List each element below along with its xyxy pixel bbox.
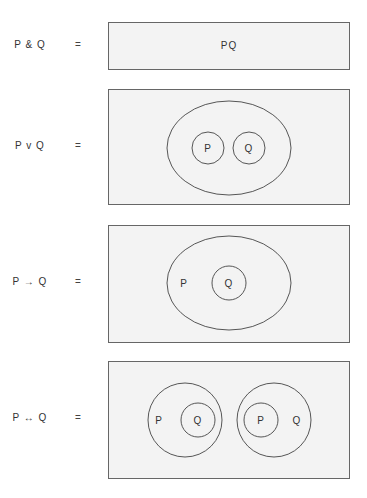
- iff-right-outer-label: Q: [293, 415, 302, 426]
- implies-label-p: P: [180, 278, 188, 289]
- implies-diagram: P Q: [109, 226, 350, 343]
- diagram-canvas: PQ P Q P Q P Q Q P: [0, 0, 367, 498]
- iff-left-inner-label: Q: [194, 415, 203, 426]
- iff-left-outer-label: P: [155, 415, 163, 426]
- iff-right-inner-label: P: [257, 415, 265, 426]
- iff-box: [109, 362, 350, 479]
- or-label-p: P: [204, 143, 212, 154]
- or-diagram: P Q: [109, 90, 350, 205]
- implies-label-q: Q: [225, 278, 234, 289]
- and-content: PQ: [221, 40, 237, 51]
- and-diagram: PQ: [109, 23, 350, 70]
- or-label-q: Q: [245, 143, 254, 154]
- or-box: [109, 90, 350, 205]
- iff-diagram: P Q Q P: [109, 362, 350, 479]
